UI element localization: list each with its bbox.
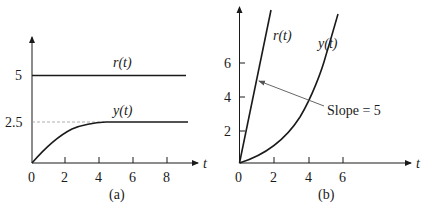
panel-a-x-axis-label: t	[203, 156, 208, 171]
panel-a-y-tick-5: 5	[15, 68, 22, 83]
panel-b-x-axis-label: t	[416, 156, 421, 171]
panel-a-x-tick-0: 0	[28, 170, 35, 185]
panel-b-y-ticks	[240, 63, 246, 131]
panel-b-y-tick-6: 6	[224, 56, 231, 71]
figure: t 0 2 4 6 8 5 2.5 r(t) y(t) (a)	[0, 0, 426, 210]
panel-b-r-curve	[240, 10, 272, 163]
panel-a-x-tick-6: 6	[129, 170, 136, 185]
panel-b-x-tick-4: 4	[305, 170, 312, 185]
slope-annotation: Slope = 5	[327, 103, 381, 118]
panel-b-x-tick-0: 0	[235, 170, 242, 185]
panel-b-x-tick-2: 2	[270, 170, 277, 185]
panel-b-r-label: r(t)	[273, 28, 292, 44]
panel-a-y-curve	[32, 122, 188, 163]
panel-b-y-tick-4: 4	[224, 90, 231, 105]
panel-a-x-ticks	[65, 157, 167, 163]
panel-a-y-tick-2-5: 2.5	[5, 115, 23, 130]
panel-b-x-ticks	[274, 157, 343, 163]
panel-a-x-tick-4: 4	[95, 170, 102, 185]
panel-a-x-tick-2: 2	[61, 170, 68, 185]
slope-leader-line	[259, 81, 324, 106]
panel-a-y-label: y(t)	[111, 103, 133, 119]
panel-a: t 0 2 4 6 8 5 2.5 r(t) y(t) (a)	[5, 37, 208, 203]
panel-b-y-tick-2: 2	[224, 124, 231, 139]
panel-b: t 0 2 4 6 2 4 6 r(t) y(t) Slo	[224, 7, 421, 203]
panel-b-caption: (b)	[318, 187, 335, 203]
panel-a-r-label: r(t)	[113, 55, 132, 71]
panel-a-caption: (a)	[109, 187, 125, 203]
panel-b-y-label: y(t)	[316, 36, 338, 52]
panel-b-x-tick-6: 6	[339, 170, 346, 185]
panel-a-x-tick-8: 8	[163, 170, 170, 185]
